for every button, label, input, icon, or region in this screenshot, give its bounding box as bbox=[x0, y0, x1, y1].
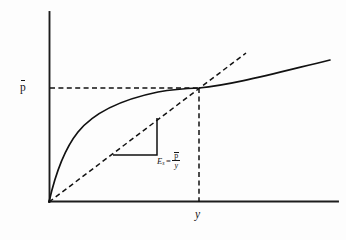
formula-numerator: p bbox=[173, 152, 179, 161]
secant-ray-line bbox=[49, 53, 246, 202]
x-axis-label: y bbox=[195, 208, 200, 220]
formula-fraction: p y bbox=[172, 152, 180, 170]
plot-canvas bbox=[0, 0, 346, 240]
y-axis-label-text: p bbox=[20, 80, 26, 93]
y-axis-label: p bbox=[20, 80, 26, 93]
formula-subscript: s bbox=[162, 160, 164, 166]
formula-equals-sign: = bbox=[165, 157, 173, 166]
economics-elasticity-figure: p y Es = p y bbox=[0, 0, 346, 240]
formula-denominator: y bbox=[174, 161, 180, 170]
response-curve-path bbox=[49, 60, 330, 202]
elasticity-formula-annotation: Es = p y bbox=[157, 152, 180, 170]
